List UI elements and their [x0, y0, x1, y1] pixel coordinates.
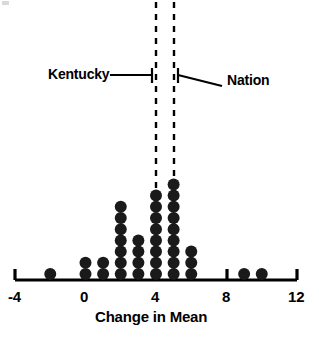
data-dot — [185, 268, 197, 280]
xtick-label-12: 12 — [288, 288, 304, 305]
xtick-label--4: -4 — [8, 288, 21, 305]
data-dot — [115, 257, 127, 269]
data-dot — [185, 257, 197, 269]
data-dot — [115, 234, 127, 246]
data-dot — [168, 178, 180, 190]
data-dot — [168, 223, 180, 235]
data-dot — [132, 268, 144, 280]
annotation-leader-lines — [110, 68, 222, 86]
data-dot — [168, 234, 180, 246]
data-dot — [44, 268, 56, 280]
data-dot — [115, 246, 127, 258]
data-dot — [150, 190, 162, 202]
data-dot — [238, 268, 250, 280]
data-dot — [168, 257, 180, 269]
data-dot — [168, 190, 180, 202]
data-dot — [150, 223, 162, 235]
data-dot — [80, 257, 92, 269]
data-dot — [150, 212, 162, 224]
data-dot — [150, 201, 162, 213]
data-dot — [150, 246, 162, 258]
xtick-label-0: 0 — [80, 288, 88, 305]
data-dot — [168, 268, 180, 280]
xtick-label-8: 8 — [222, 288, 230, 305]
data-dot — [132, 234, 144, 246]
dotplot-chart — [0, 0, 319, 337]
data-dot — [97, 268, 109, 280]
data-dot — [115, 223, 127, 235]
data-dot — [80, 268, 92, 280]
data-dot — [132, 257, 144, 269]
data-dot — [115, 268, 127, 280]
x-axis-title: Change in Mean — [95, 308, 207, 325]
data-dot — [132, 246, 144, 258]
kentucky-annotation-label: Kentucky — [48, 66, 109, 82]
data-dot — [150, 257, 162, 269]
data-dot — [115, 201, 127, 213]
data-dot — [97, 257, 109, 269]
data-dot — [168, 246, 180, 258]
data-dot — [150, 268, 162, 280]
data-dot — [115, 212, 127, 224]
data-dot — [256, 268, 268, 280]
data-dot — [150, 234, 162, 246]
data-dot — [168, 212, 180, 224]
nation-annotation-label: Nation — [227, 72, 269, 88]
data-dots — [44, 178, 268, 280]
data-dot — [185, 246, 197, 258]
xtick-label-4: 4 — [151, 288, 159, 305]
data-dot — [168, 201, 180, 213]
